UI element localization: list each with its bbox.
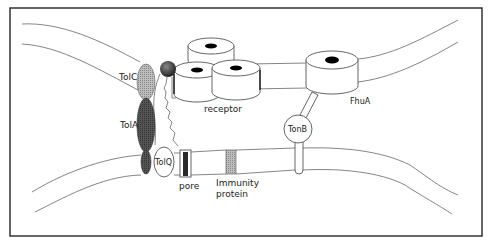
tolc-protein bbox=[137, 64, 155, 100]
fhua-hole-icon bbox=[325, 57, 339, 64]
fhua-receptor bbox=[306, 51, 358, 94]
tola-protein bbox=[137, 98, 155, 152]
tola-anchor bbox=[141, 150, 151, 174]
pore-label: pore bbox=[179, 181, 200, 191]
tolq-label: TolQ bbox=[154, 158, 172, 167]
tonb-label: TonB bbox=[287, 125, 307, 134]
receptor-hole-icon bbox=[205, 44, 217, 49]
immunity-label-line2: protein bbox=[216, 189, 248, 199]
pore-channel bbox=[180, 150, 191, 177]
receptor-label: receptor bbox=[204, 104, 242, 114]
tola-label: TolA bbox=[119, 120, 139, 130]
immunity-label-line1: Immunity bbox=[216, 178, 260, 188]
colicin-sphere bbox=[160, 61, 176, 77]
envelope-diagram: receptor FhuA TonB TolC TolA TolQ pore I… bbox=[0, 0, 496, 246]
tolc-label: TolC bbox=[118, 72, 137, 82]
immunity-protein bbox=[226, 150, 236, 174]
fhua-label: FhuA bbox=[350, 97, 371, 106]
figure-frame bbox=[10, 8, 482, 236]
